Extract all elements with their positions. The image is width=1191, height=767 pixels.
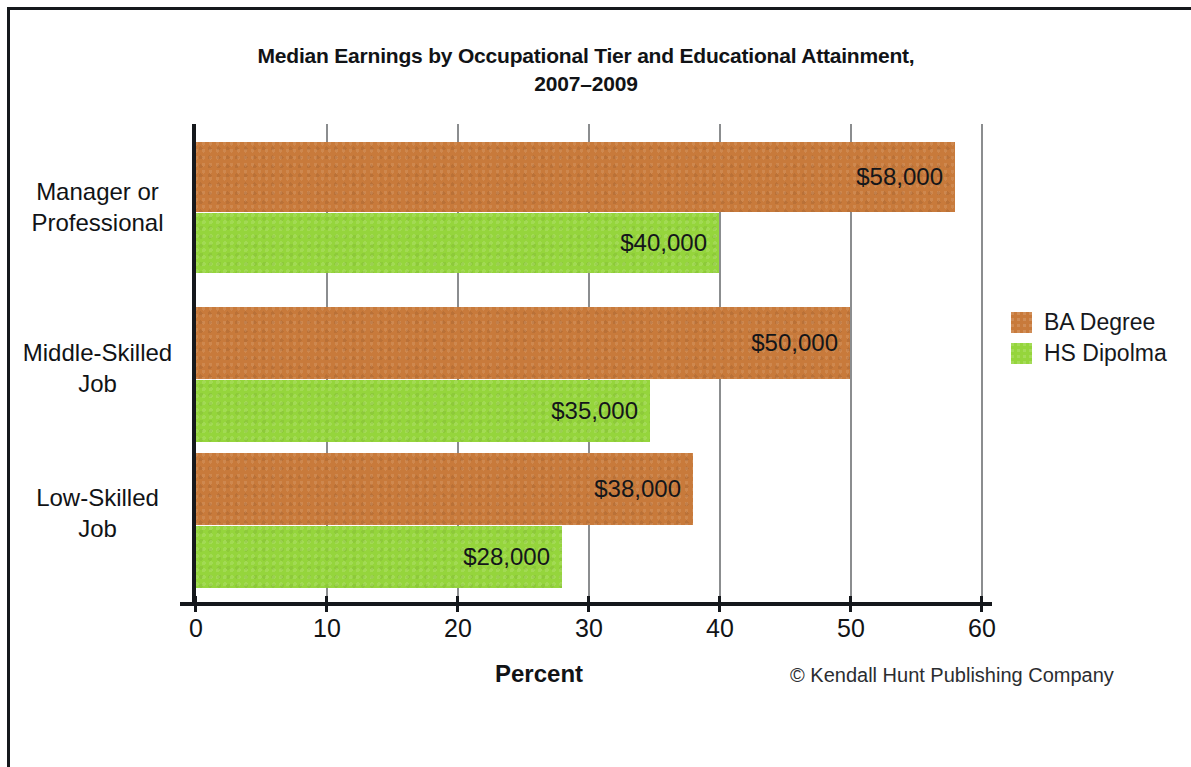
bar-manager-or-professional-hs-dipolma[interactable]: $40,000 — [195, 213, 719, 273]
category-label-low-skilled-job: Low-Skilled Job — [10, 482, 185, 544]
copyright-notice: © Kendall Hunt Publishing Company — [790, 664, 1114, 687]
plot-area: $58,000 $40,000 $50,000 $35,000 $38,000 … — [195, 124, 981, 604]
x-axis-tick-30 — [587, 596, 590, 612]
bar-low-skilled-job-hs-dipolma[interactable]: $28,000 — [195, 526, 562, 588]
bar-value-label: $40,000 — [620, 229, 719, 257]
legend-label-ba-degree: BA Degree — [1044, 309, 1155, 336]
category-label-line-1: Manager or — [10, 176, 185, 207]
x-axis-tick-label-30: 30 — [559, 614, 619, 643]
bar-value-label: $38,000 — [594, 475, 693, 503]
x-axis-tick-label-0: 0 — [166, 614, 226, 643]
chart-legend: BA Degree HS Dipolma — [1011, 307, 1167, 369]
x-axis-tick-label-40: 40 — [690, 614, 750, 643]
bar-value-label: $58,000 — [856, 163, 955, 191]
category-label-line-2: Job — [10, 368, 185, 399]
category-label-manager-or-professional: Manager or Professional — [10, 176, 185, 238]
x-axis-tick-10 — [325, 596, 328, 612]
chart-title-line-2: 2007–2009 — [186, 70, 986, 98]
x-axis-tick-40 — [718, 596, 721, 612]
legend-swatch-icon-ba-degree — [1011, 312, 1032, 333]
chart-title-line-1: Median Earnings by Occupational Tier and… — [258, 44, 915, 67]
bar-low-skilled-job-ba-degree[interactable]: $38,000 — [195, 453, 693, 525]
x-axis-tick-label-60: 60 — [952, 614, 1012, 643]
legend-item-hs-dipolma[interactable]: HS Dipolma — [1011, 338, 1167, 369]
x-axis-tick-60 — [980, 596, 983, 612]
bar-middle-skilled-job-hs-dipolma[interactable]: $35,000 — [195, 380, 650, 442]
x-axis-line — [180, 602, 992, 606]
x-axis-tick-label-10: 10 — [297, 614, 357, 643]
y-axis-line — [192, 124, 196, 606]
legend-label-hs-dipolma: HS Dipolma — [1044, 340, 1167, 367]
category-label-middle-skilled-job: Middle-Skilled Job — [10, 337, 185, 399]
x-axis-tick-0 — [194, 596, 197, 612]
gridline-60 — [981, 124, 983, 604]
x-axis-title: Percent — [495, 660, 583, 688]
legend-swatch-icon-hs-dipolma — [1011, 343, 1032, 364]
bar-value-label: $28,000 — [463, 543, 562, 571]
bar-manager-or-professional-ba-degree[interactable]: $58,000 — [195, 142, 955, 212]
x-axis-tick-label-50: 50 — [821, 614, 881, 643]
x-axis-tick-20 — [456, 596, 459, 612]
x-axis-tick-50 — [849, 596, 852, 612]
x-axis-tick-label-20: 20 — [428, 614, 488, 643]
bar-middle-skilled-job-ba-degree[interactable]: $50,000 — [195, 307, 850, 379]
category-label-line-2: Professional — [10, 207, 185, 238]
category-label-line-2: Job — [10, 513, 185, 544]
chart-title: Median Earnings by Occupational Tier and… — [186, 42, 986, 98]
bar-value-label: $35,000 — [551, 397, 650, 425]
legend-item-ba-degree[interactable]: BA Degree — [1011, 307, 1167, 338]
category-label-line-1: Low-Skilled — [10, 482, 185, 513]
bar-value-label: $50,000 — [751, 329, 850, 357]
category-label-line-1: Middle-Skilled — [10, 337, 185, 368]
